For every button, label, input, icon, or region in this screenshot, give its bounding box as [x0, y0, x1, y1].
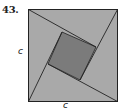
- side-label-left: c: [18, 46, 23, 56]
- side-label-bottom: c: [63, 100, 68, 110]
